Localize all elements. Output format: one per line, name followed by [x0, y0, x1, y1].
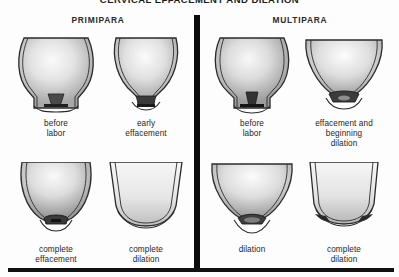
- panel-caption: before labor: [8, 119, 104, 139]
- caption-line: before: [204, 119, 300, 129]
- uterus-cervix-complete-dilation-icon: [98, 162, 194, 244]
- panel-caption: dilation: [204, 245, 300, 255]
- panel-multipara-dilation: dilation: [204, 162, 300, 255]
- panel-caption: complete dilation: [296, 245, 392, 265]
- caption-line: labor: [8, 129, 104, 139]
- caption-line: before: [8, 119, 104, 129]
- figure-title: CERVICAL EFFACEMENT AND DILATION: [0, 0, 399, 6]
- panel-primipara-before-labor: before labor: [8, 36, 104, 139]
- uterus-cervix-closed-long-icon: [204, 36, 300, 118]
- cervical-effacement-dilation-figure: CERVICAL EFFACEMENT AND DILATION PRIMIPA…: [0, 0, 399, 277]
- caption-line: dilation: [296, 255, 392, 265]
- caption-line: labor: [204, 129, 300, 139]
- panel-primipara-complete-effacement: complete effacement: [8, 162, 104, 265]
- panel-multipara-complete-dilation: complete dilation: [296, 162, 392, 265]
- panel-multipara-effacement-beginning-dilation: effacement and beginning dilation: [296, 36, 392, 150]
- caption-line: effacement: [98, 129, 194, 139]
- panel-caption: early effacement: [98, 119, 194, 139]
- caption-line: effacement: [8, 255, 104, 265]
- caption-line: early: [98, 119, 194, 129]
- panel-caption: effacement and beginning dilation: [296, 119, 392, 150]
- caption-line: dilation: [296, 139, 392, 149]
- uterus-cervix-dilation-icon: [204, 162, 300, 244]
- panel-caption: complete dilation: [98, 245, 194, 265]
- caption-line: dilation: [98, 255, 194, 265]
- column-divider: [194, 15, 200, 270]
- caption-line: effacement and: [296, 119, 392, 129]
- caption-line: complete: [8, 245, 104, 255]
- uterus-cervix-closed-long-icon: [8, 36, 104, 118]
- uterus-cervix-effaced-beginning-dilation-icon: [296, 36, 392, 118]
- column-heading-multipara: MULTIPARA: [240, 15, 360, 25]
- panel-caption: complete effacement: [8, 245, 104, 265]
- caption-line: beginning: [296, 129, 392, 139]
- caption-line: complete: [296, 245, 392, 255]
- bottom-rule: [8, 268, 394, 272]
- uterus-cervix-complete-dilation-icon: [296, 162, 392, 244]
- caption-line: dilation: [204, 245, 300, 255]
- panel-primipara-complete-dilation: complete dilation: [98, 162, 194, 265]
- uterus-cervix-early-effacement-icon: [98, 36, 194, 118]
- panel-caption: before labor: [204, 119, 300, 139]
- uterus-cervix-complete-effacement-icon: [8, 162, 104, 244]
- panel-primipara-early-effacement: early effacement: [98, 36, 194, 139]
- caption-line: complete: [98, 245, 194, 255]
- column-heading-primipara: PRIMIPARA: [38, 15, 158, 25]
- panel-multipara-before-labor: before labor: [204, 36, 300, 139]
